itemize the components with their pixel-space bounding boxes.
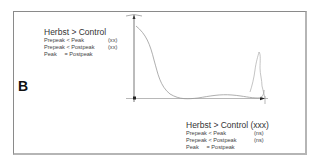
comparison-label: Prepeak < Peak bbox=[186, 130, 254, 137]
y-axis-arrow-icon bbox=[133, 15, 136, 19]
comparison-label: Peak = Postpeak bbox=[186, 144, 254, 151]
data-curve-loop bbox=[250, 52, 265, 98]
legend-row: Prepeak < Peak (ns) bbox=[186, 130, 269, 137]
significance-label: (ns) bbox=[254, 137, 264, 144]
significance-label: (ns) bbox=[254, 130, 264, 137]
origin-marker bbox=[133, 97, 136, 100]
legend-row: Peak = Postpeak bbox=[186, 144, 269, 151]
curve-plot bbox=[0, 0, 319, 163]
legend-herbst-vs-control-lower: Herbst > Control (xxx) Prepeak < Peak (n… bbox=[186, 120, 269, 151]
legend-row: Prepeak < Postpeak (ns) bbox=[186, 137, 269, 144]
legend-title: Herbst > Control (xxx) bbox=[186, 120, 269, 130]
comparison-label: Prepeak < Postpeak bbox=[186, 137, 254, 144]
data-curve bbox=[136, 26, 264, 99]
